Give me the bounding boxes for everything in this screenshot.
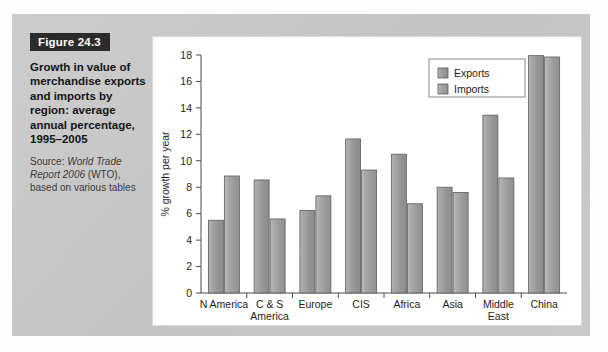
y-axis: 024681012141618% growth per year <box>159 49 201 299</box>
bar-exports-europe <box>300 210 315 293</box>
figure-title: Growth in value of merchandise exports a… <box>30 60 148 146</box>
x-axis: N AmericaC & SAmericaEuropeCISAfricaAsia… <box>200 293 567 322</box>
y-tick-label: 8 <box>186 181 192 193</box>
x-category-label: China <box>530 298 558 310</box>
y-tick-label: 6 <box>186 207 192 219</box>
bar-imports-c-s-america <box>270 219 285 293</box>
figure-caption-block: Figure 24.3 Growth in value of merchandi… <box>30 32 148 282</box>
legend-label-exports: Exports <box>454 67 490 79</box>
bar-exports-africa <box>391 154 406 293</box>
bar-imports-europe <box>316 196 331 293</box>
figure-page: Figure 24.3 Growth in value of merchandi… <box>0 0 608 352</box>
bar-imports-cis <box>362 170 377 293</box>
chart-legend: ExportsImports <box>429 59 525 97</box>
bar-exports-c-s-america <box>254 180 269 293</box>
y-tick-label: 18 <box>180 49 192 61</box>
source-prefix: Source: <box>30 156 67 167</box>
y-tick-label: 12 <box>180 128 192 140</box>
bar-exports-asia <box>437 187 452 293</box>
bar-imports-asia <box>453 193 468 293</box>
x-category-label: America <box>250 310 289 322</box>
y-axis-title: % growth per year <box>159 131 171 217</box>
y-tick-label: 4 <box>186 234 192 246</box>
x-category-label: East <box>488 310 509 322</box>
bar-exports-cis <box>346 139 361 293</box>
figure-mount: Figure 24.3 Growth in value of merchandi… <box>12 14 590 336</box>
y-tick-label: 0 <box>186 287 192 299</box>
figure-number-badge: Figure 24.3 <box>30 33 110 51</box>
x-category-label: Asia <box>442 298 463 310</box>
legend-label-imports: Imports <box>454 83 489 95</box>
x-category-label: Africa <box>393 298 420 310</box>
y-tick-label: 10 <box>180 155 192 167</box>
y-tick-label: 2 <box>186 260 192 272</box>
legend-swatch-exports <box>438 68 448 78</box>
bar-imports-africa <box>407 204 422 293</box>
legend-swatch-imports <box>438 84 448 94</box>
y-tick-label: 14 <box>180 102 192 114</box>
figure-source: Source: World Trade Report 2006 (WTO), b… <box>30 155 148 194</box>
bar-imports-middle-east <box>499 178 514 293</box>
x-category-label: Europe <box>298 298 332 310</box>
x-category-label: Middle <box>483 298 514 310</box>
y-tick-label: 16 <box>180 75 192 87</box>
bar-exports-china <box>529 56 544 293</box>
bar-exports-n-america <box>208 220 223 293</box>
x-category-label: CIS <box>352 298 370 310</box>
bar-imports-china <box>545 57 560 293</box>
bar-imports-n-america <box>224 176 239 293</box>
chart-panel: 024681012141618% growth per year N Ameri… <box>152 36 582 326</box>
bar-exports-middle-east <box>483 115 498 293</box>
bar-chart: 024681012141618% growth per year N Ameri… <box>153 37 581 325</box>
x-category-label: N America <box>200 298 249 310</box>
x-category-label: C & S <box>256 298 283 310</box>
